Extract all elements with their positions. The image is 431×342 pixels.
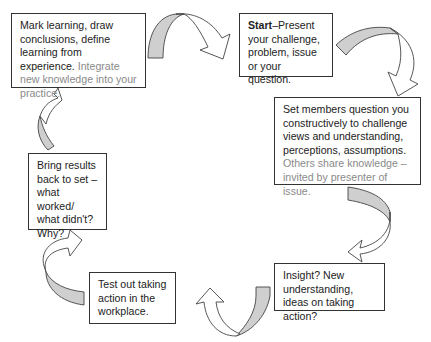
step-question: Set members question you constructively …: [274, 97, 421, 185]
curved-arrow-icon: [348, 187, 390, 262]
step-start-label: Start: [248, 19, 272, 31]
curved-arrow-icon: [148, 14, 230, 59]
step-text: Set members question you constructively …: [283, 103, 409, 156]
step-mark-learning: Mark learning, draw conclusions, define …: [11, 13, 146, 88]
curved-arrow-icon: [43, 230, 84, 305]
step-text: Test out taking action in the workplace.: [98, 278, 166, 317]
step-start: Start–Present your challenge, problem, i…: [239, 13, 333, 77]
step-text: Bring results back to set – what worked/…: [37, 159, 97, 239]
curved-arrow-icon: [336, 27, 418, 96]
step-insight: Insight? New understanding, ideas on tak…: [274, 263, 385, 311]
step-test: Test out taking action in the workplace.: [89, 272, 176, 324]
step-results: Bring results back to set – what worked/…: [28, 153, 107, 230]
curved-arrow-icon: [196, 287, 270, 336]
